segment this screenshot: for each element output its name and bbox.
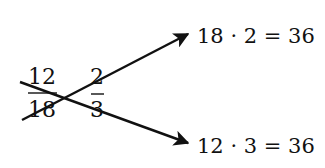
fraction-right-numerator: 2 [90, 64, 104, 89]
result-bottom: 12 · 3 = 36 [197, 134, 315, 158]
cross-multiplication-diagram: 12 18 2 3 18 · 2 = 36 12 · 3 = 36 [0, 0, 325, 168]
result-top: 18 · 2 = 36 [197, 24, 315, 48]
fraction-right: 2 3 [90, 64, 104, 122]
